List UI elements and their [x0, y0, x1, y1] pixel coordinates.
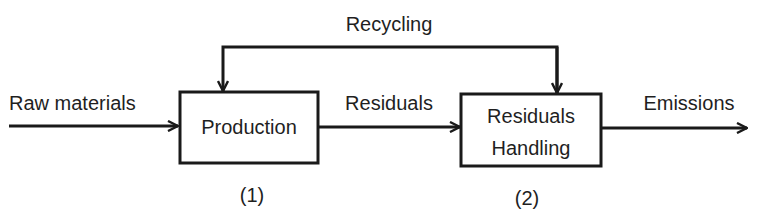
production-label: Production — [201, 116, 297, 138]
production-node: Production (1) — [180, 92, 318, 206]
residuals-handling-label-line2: Handling — [492, 137, 571, 159]
residuals-handling-node: Residuals Handling (2) — [461, 94, 601, 209]
recycling-label: Recycling — [346, 13, 433, 35]
residuals-handling-label-line1: Residuals — [487, 105, 575, 127]
emissions-edge: Emissions — [601, 92, 747, 128]
recycling-loop: Recycling — [223, 13, 557, 93]
flow-diagram: Recycling Raw materials Production (1) R… — [0, 0, 763, 220]
raw-materials-edge: Raw materials — [9, 92, 178, 126]
emissions-label: Emissions — [643, 92, 734, 114]
raw-materials-label: Raw materials — [9, 92, 136, 114]
residuals-handling-number: (2) — [515, 187, 539, 209]
recycling-arrow — [223, 47, 557, 93]
residuals-edge: Residuals — [318, 92, 460, 127]
residuals-label: Residuals — [345, 92, 433, 114]
production-number: (1) — [240, 184, 264, 206]
